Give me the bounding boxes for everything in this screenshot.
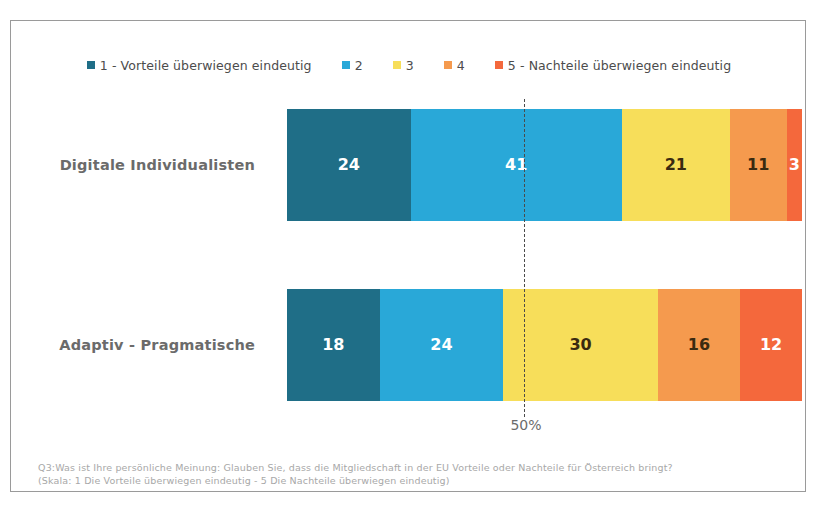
legend-label-2: 2 xyxy=(355,58,363,73)
legend-item-2[interactable]: 2 xyxy=(342,58,363,73)
bar-segment-value: 24 xyxy=(430,337,452,353)
category-label: Adaptiv - Pragmatische xyxy=(31,289,271,401)
bar-segment-2[interactable]: 24 xyxy=(380,289,504,401)
bar-segment-value: 30 xyxy=(569,337,591,353)
footnote-line-scale: (Skala: 1 Die Vorteile überwiegen eindeu… xyxy=(38,474,798,487)
bar-segment-2[interactable]: 41 xyxy=(411,109,622,221)
legend-item-5[interactable]: 5 - Nachteile überwiegen eindeutig xyxy=(495,58,731,73)
legend-item-3[interactable]: 3 xyxy=(393,58,414,73)
footnote: Q3:Was ist Ihre persönliche Meinung: Gla… xyxy=(38,461,798,487)
bar-segment-value: 3 xyxy=(789,157,800,173)
legend-item-4[interactable]: 4 xyxy=(444,58,465,73)
chart-row: Adaptiv - Pragmatische1824301612 xyxy=(31,289,817,401)
fifty-percent-label: 50% xyxy=(481,417,571,433)
chart-page: 1 - Vorteile überwiegen eindeutig2345 - … xyxy=(0,0,825,515)
legend-label-1: 1 - Vorteile überwiegen eindeutig xyxy=(100,58,312,73)
legend-swatch-icon-3 xyxy=(393,61,401,69)
bar-segment-4[interactable]: 11 xyxy=(730,109,787,221)
bar-segment-1[interactable]: 18 xyxy=(287,289,380,401)
bar-segment-value: 18 xyxy=(322,337,344,353)
plot-area: Digitale Individualisten244121113Adaptiv… xyxy=(31,91,817,421)
bar-segment-value: 12 xyxy=(760,337,782,353)
chart-legend: 1 - Vorteile überwiegen eindeutig2345 - … xyxy=(31,53,787,77)
stacked-bar: 1824301612 xyxy=(287,289,802,401)
legend-swatch-icon-1 xyxy=(87,61,95,69)
footnote-line-question: Q3:Was ist Ihre persönliche Meinung: Gla… xyxy=(38,461,798,474)
legend-label-5: 5 - Nachteile überwiegen eindeutig xyxy=(508,58,731,73)
stacked-bar: 244121113 xyxy=(287,109,802,221)
legend-swatch-icon-2 xyxy=(342,61,350,69)
legend-label-4: 4 xyxy=(457,58,465,73)
bar-segment-value: 21 xyxy=(665,157,687,173)
chart-row: Digitale Individualisten244121113 xyxy=(31,109,817,221)
legend-swatch-icon-5 xyxy=(495,61,503,69)
legend-swatch-icon-4 xyxy=(444,61,452,69)
bar-segment-value: 11 xyxy=(747,157,769,173)
bar-segment-5[interactable]: 12 xyxy=(740,289,802,401)
legend-label-3: 3 xyxy=(406,58,414,73)
bar-segment-3[interactable]: 30 xyxy=(503,289,658,401)
category-label: Digitale Individualisten xyxy=(31,109,271,221)
bar-segment-value: 16 xyxy=(688,337,710,353)
bar-segment-1[interactable]: 24 xyxy=(287,109,411,221)
chart-frame: 1 - Vorteile überwiegen eindeutig2345 - … xyxy=(10,20,806,492)
fifty-percent-reference-line xyxy=(524,99,525,417)
bar-segment-4[interactable]: 16 xyxy=(658,289,740,401)
bar-segment-value: 24 xyxy=(338,157,360,173)
bar-segment-3[interactable]: 21 xyxy=(622,109,730,221)
legend-item-1[interactable]: 1 - Vorteile überwiegen eindeutig xyxy=(87,58,312,73)
bar-segment-5[interactable]: 3 xyxy=(787,109,802,221)
